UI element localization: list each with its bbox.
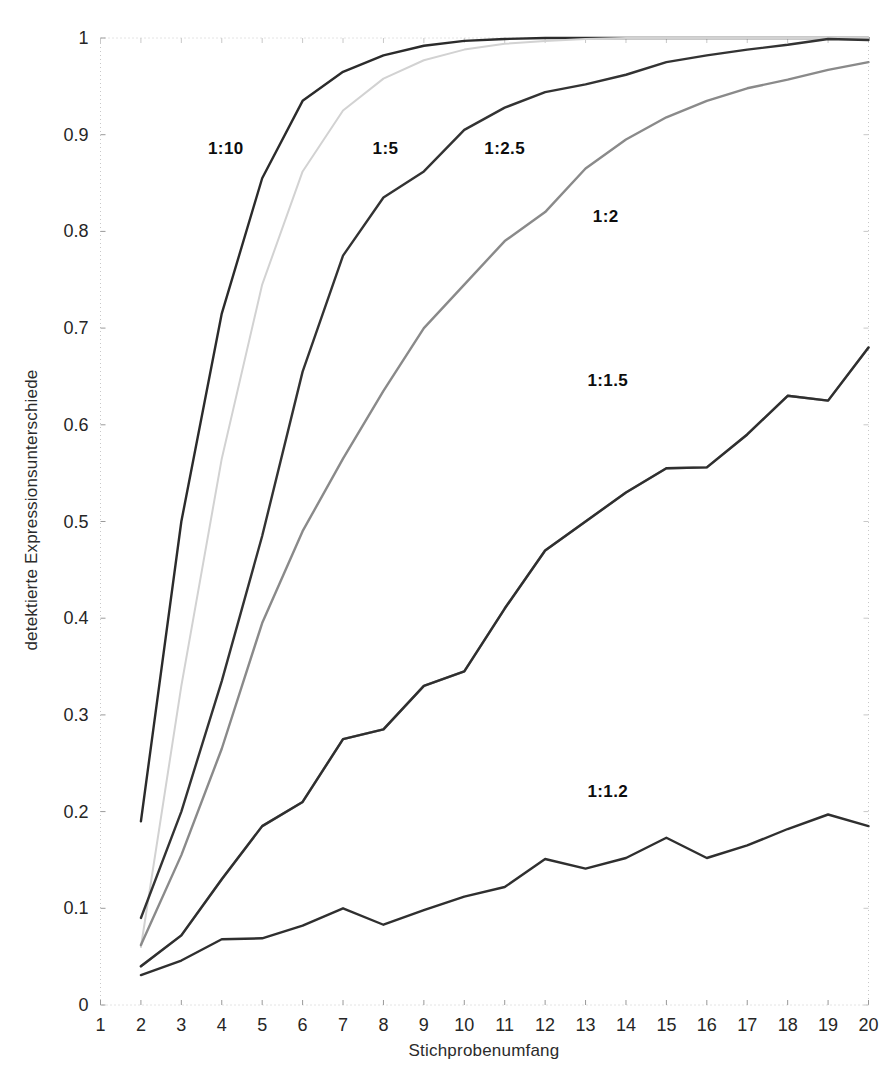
series-line-unlabeled-light: [141, 38, 869, 947]
series-line-1-1-2: [141, 815, 869, 976]
series-label-1-1-2: 1:1.2: [587, 782, 628, 802]
series-label-1-1-5: 1:1.5: [587, 371, 628, 391]
series-line-1-2-5: [141, 62, 869, 945]
series-line-1-5: [141, 39, 869, 918]
series-label-1-2: 1:2: [593, 207, 619, 227]
chart-figure: detektierte Expressionsunterschiede Stic…: [0, 0, 890, 1076]
series-label-1-2-5: 1:2.5: [484, 139, 525, 159]
plot-area: [0, 0, 890, 1076]
series-label-1-5: 1:5: [373, 139, 399, 159]
series-label-1-10: 1:10: [208, 139, 244, 159]
plot-frame: [101, 38, 869, 1005]
